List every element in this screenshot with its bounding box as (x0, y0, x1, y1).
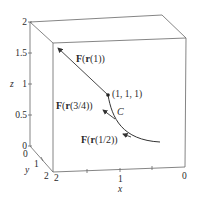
y-tick-0: 0 (23, 149, 28, 159)
x-tick-0: 0 (182, 171, 187, 181)
y-tick-1: 1 (34, 159, 39, 169)
point-1-1-1 (106, 93, 110, 97)
z-tick-1: 1 (22, 79, 27, 89)
z-tick-0.5: 0.5 (15, 110, 27, 120)
curve-label: C (117, 106, 124, 117)
x-axis-label: x (117, 184, 123, 194)
vector-label-f-r1: F(r(1)) (76, 53, 105, 65)
z-tick-1.5: 1.5 (15, 48, 27, 58)
z-tick-2: 2 (22, 17, 27, 27)
vector-label-f-r34: F(r(3/4)) (56, 100, 93, 112)
y-axis-tick-labels: 0 1 2 y (23, 149, 49, 181)
x-tick-1: 1 (118, 174, 123, 184)
z-axis-tick-labels: 2 1.5 1 0.5 0 z (9, 17, 27, 151)
z-axis-label: z (9, 79, 14, 89)
vector-f-r12-arrow (123, 134, 131, 137)
y-tick-2: 2 (44, 171, 49, 181)
x-tick-2: 2 (54, 173, 59, 183)
y-axis-label: y (24, 165, 30, 175)
vector-label-f-r12: F(r(1/2)) (81, 134, 118, 146)
x-axis-tick-labels: 2 1 0 x (54, 171, 187, 194)
vector-field-diagram: 2 1.5 1 0.5 0 z 0 1 2 y 2 1 0 x (1, 1, 1… (0, 0, 201, 200)
point-label: (1, 1, 1) (112, 89, 142, 100)
